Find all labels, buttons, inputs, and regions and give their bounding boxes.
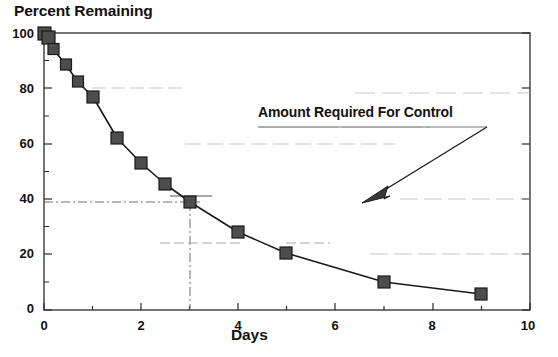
data-point-day5 bbox=[280, 247, 292, 259]
annotation-arrow bbox=[258, 127, 487, 203]
plot-canvas bbox=[0, 0, 558, 357]
chart-figure: Percent Remaining Days Amount Required F… bbox=[0, 0, 558, 357]
data-point-day1.5 bbox=[111, 132, 123, 144]
data-point-day0.2 bbox=[48, 44, 59, 55]
data-point-day0.45 bbox=[61, 59, 72, 70]
data-point-day3 bbox=[184, 196, 196, 208]
decay-curve bbox=[44, 33, 481, 294]
data-point-day1 bbox=[87, 91, 99, 103]
y-axis-minor-ticks bbox=[44, 61, 49, 283]
plot-frame bbox=[44, 33, 530, 310]
data-point-markers bbox=[38, 27, 487, 300]
x-axis-ticks bbox=[44, 303, 530, 310]
annotation-arrow-head bbox=[362, 186, 390, 203]
data-point-day2.5 bbox=[159, 178, 171, 190]
data-point-day4 bbox=[232, 226, 244, 238]
data-point-day2 bbox=[135, 157, 147, 169]
data-point-day0.7 bbox=[73, 76, 84, 87]
scan-artifact-lines bbox=[92, 88, 530, 254]
data-point-day9 bbox=[475, 288, 487, 300]
data-point-day7 bbox=[378, 276, 390, 288]
y-axis-major-ticks bbox=[44, 33, 530, 310]
data-point-day0-b bbox=[42, 31, 55, 44]
annotation-arrow-shaft bbox=[378, 127, 487, 194]
